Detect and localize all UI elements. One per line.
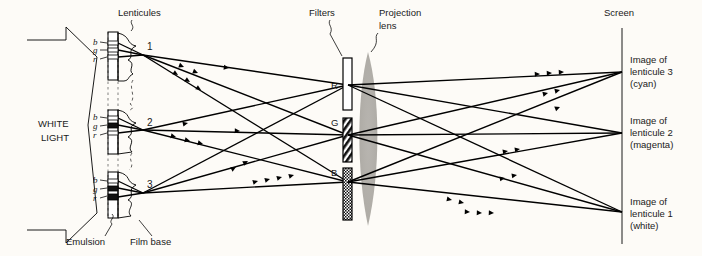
filter-strip-b[interactable] [343, 168, 352, 220]
image2-line2: lenticule 2 [630, 127, 673, 138]
optics-diagram: WHITE LIGHT [0, 0, 702, 256]
screen-image-caption-3: Image of lenticule 3 (cyan) [630, 54, 673, 89]
filter-strip-g[interactable] [343, 118, 352, 162]
image3-line3: (cyan) [630, 78, 656, 89]
lenticule-1-bands [108, 41, 118, 59]
image3-line2: lenticule 3 [630, 66, 673, 77]
ray-arrowheads-image-side [446, 70, 564, 216]
projection-lens-label-line2: lens [379, 20, 397, 31]
projection-lens-label-line1: Projection [379, 7, 421, 18]
band-label-r-1: r [93, 54, 97, 64]
white-light-label-line1: WHITE [38, 118, 69, 129]
band-label-r-3: r [93, 193, 97, 203]
filter-label-b: B [331, 167, 337, 178]
filter-strip-r[interactable] [343, 58, 352, 110]
lenticule-2-bands [108, 116, 118, 135]
screen-image-caption-1: Image of lenticule 1 (white) [630, 196, 673, 231]
image3-line1: Image of [630, 54, 667, 65]
film-base-label: Film base [130, 236, 171, 247]
image2-line1: Image of [630, 115, 667, 126]
image2-line3: (magenta) [630, 139, 673, 150]
screen-label: Screen [604, 7, 634, 18]
ray-arrowheads-object-side [170, 63, 294, 185]
filter-label-r: R [331, 80, 338, 91]
lenticules-label: Lenticules [118, 7, 161, 18]
diagram-canvas: WHITE LIGHT [0, 0, 702, 256]
image1-line3: (white) [630, 220, 659, 231]
emulsion-label: Emulsion [66, 236, 105, 247]
band-label-r-2: r [93, 130, 97, 140]
rays-image-side [348, 72, 622, 212]
lenticule-number-1: 1 [147, 41, 153, 52]
white-light-label-line2: LIGHT [41, 132, 69, 143]
filters-label: Filters [309, 7, 335, 18]
lenticule-3-bands [108, 179, 118, 200]
image1-line1: Image of [630, 196, 667, 207]
screen-image-caption-2: Image of lenticule 2 (magenta) [630, 115, 673, 150]
image1-line2: lenticule 1 [630, 208, 673, 219]
lenticule-number-2: 2 [147, 117, 153, 128]
filter-label-g: G [331, 117, 338, 128]
